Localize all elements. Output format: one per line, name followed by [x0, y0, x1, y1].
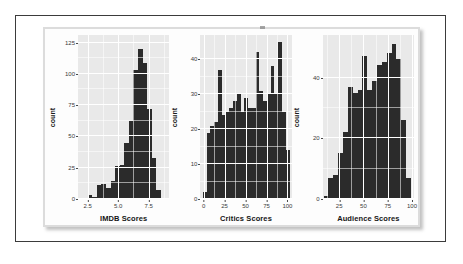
y-axis-title: count [292, 35, 303, 199]
x-tick-label: 7.5 [144, 203, 152, 209]
gridline-vertical-minor [133, 35, 134, 199]
gridline-horizontal [78, 42, 169, 43]
plot-row: count 0255075100125 [47, 35, 169, 199]
y-tick-label: 75 [68, 102, 75, 108]
plot-row: count 02040 [292, 35, 414, 199]
x-axis-ticks: 2.55.07.5 [78, 199, 169, 212]
x-tick-label: 0 [202, 203, 205, 209]
x-tick-label: 25 [336, 203, 343, 209]
gridline-vertical [267, 35, 268, 199]
gridline-vertical [339, 35, 340, 199]
x-tick-label: 2.5 [84, 203, 92, 209]
histogram-bar [406, 178, 411, 199]
gridline-vertical [246, 35, 247, 199]
y-tick-label: 30 [191, 91, 198, 97]
gridline-vertical-minor [214, 35, 215, 199]
x-tick-label: 50 [242, 203, 249, 209]
gridline-horizontal-minor [78, 182, 169, 183]
gridline-horizontal [78, 167, 169, 168]
y-axis-ticks: 02040 [303, 35, 323, 199]
x-axis-title-audience: Audience Scores [323, 212, 414, 223]
document-frame: count 0255075100125 2.55.07.5 IMDB Score… [15, 15, 446, 242]
x-axis-title-critics: Critics Scores [200, 212, 291, 223]
gridline-vertical-minor [164, 35, 165, 199]
y-tick-label: 20 [313, 135, 320, 141]
gridline-horizontal-minor [78, 151, 169, 152]
facet-audience-scores: count 02040 255075100 Audience Scores [292, 35, 414, 223]
gridline-horizontal [78, 135, 169, 136]
y-tick-label: 100 [65, 71, 75, 77]
gridline-vertical [287, 35, 288, 199]
x-tick-label: 75 [263, 203, 270, 209]
gridline-vertical-minor [400, 35, 401, 199]
x-axis-title-imdb: IMDB Scores [78, 212, 169, 223]
x-tick-label: 100 [407, 203, 417, 209]
gridline-vertical [88, 35, 89, 199]
gridline-vertical [412, 35, 413, 199]
y-axis-title: count [169, 35, 180, 199]
y-tick-label: 0 [194, 196, 197, 202]
y-tick-label: 40 [191, 56, 198, 62]
y-tick-label: 20 [191, 126, 198, 132]
facet-row: count 0255075100125 2.55.07.5 IMDB Score… [45, 29, 418, 225]
facet-critics-scores: count 010203040 0255075100 Critics Score… [169, 35, 291, 223]
gridline-vertical-minor [256, 35, 257, 199]
plot-panel-critics [200, 35, 291, 199]
y-axis-title-text: count [294, 107, 301, 127]
gridline-horizontal-minor [78, 120, 169, 121]
plot-row: count 010203040 [169, 35, 291, 199]
gridline-vertical [363, 35, 364, 199]
figure-card: count 0255075100125 2.55.07.5 IMDB Score… [43, 27, 420, 227]
gridline-vertical [149, 35, 150, 199]
histogram-bars-imdb [78, 35, 169, 199]
gridline-vertical-minor [103, 35, 104, 199]
y-tick-label: 40 [313, 75, 320, 81]
gridline-vertical-minor [327, 35, 328, 199]
gridline-horizontal [78, 104, 169, 105]
x-tick-label: 25 [221, 203, 228, 209]
gridline-vertical [225, 35, 226, 199]
y-axis-ticks: 010203040 [180, 35, 200, 199]
y-axis-title: count [47, 35, 58, 199]
x-tick-label: 75 [384, 203, 391, 209]
y-axis-title-text: count [49, 107, 56, 127]
x-axis-ticks: 0255075100 [200, 199, 291, 212]
gridline-vertical [388, 35, 389, 199]
facet-imdb-scores: count 0255075100125 2.55.07.5 IMDB Score… [47, 35, 169, 223]
y-axis-title-text: count [171, 107, 178, 127]
gridline-horizontal-minor [78, 57, 169, 58]
gridline-horizontal [78, 73, 169, 74]
gridline-vertical [118, 35, 119, 199]
y-tick-label: 0 [72, 196, 75, 202]
y-tick-label: 0 [316, 196, 319, 202]
y-tick-label: 50 [68, 133, 75, 139]
y-axis-ticks: 0255075100125 [58, 35, 78, 199]
plot-panel-imdb [78, 35, 169, 199]
y-tick-label: 10 [191, 161, 198, 167]
y-tick-label: 25 [68, 165, 75, 171]
y-tick-label: 125 [65, 40, 75, 46]
x-tick-label: 5.0 [114, 203, 122, 209]
gridline-horizontal-minor [78, 88, 169, 89]
x-axis-ticks: 255075100 [323, 199, 414, 212]
gridline-vertical-minor [235, 35, 236, 199]
gridline-vertical [204, 35, 205, 199]
gridline-vertical-minor [277, 35, 278, 199]
gridline-vertical-minor [351, 35, 352, 199]
gridline-vertical-minor [376, 35, 377, 199]
plot-panel-audience [323, 35, 414, 199]
x-tick-label: 50 [360, 203, 367, 209]
